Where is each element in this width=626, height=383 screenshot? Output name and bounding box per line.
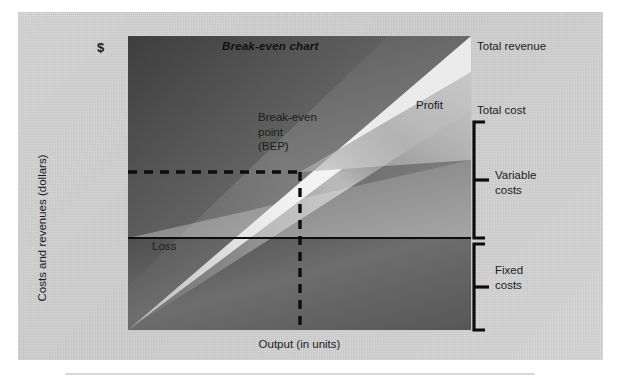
screenshot-root: $ Costs and revenues (dollars) Output (i…: [0, 0, 626, 383]
footer-divider: [65, 373, 535, 375]
bracket-group: [0, 0, 626, 383]
